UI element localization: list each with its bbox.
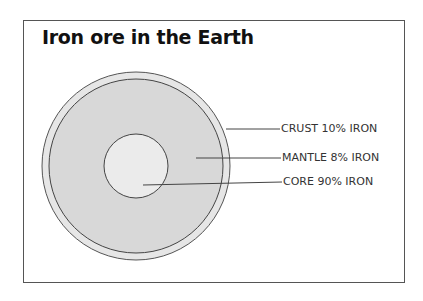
mantle-label: MANTLE 8% IRON [282, 151, 379, 164]
core-label: CORE 90% IRON [283, 175, 373, 188]
crust-label: CRUST 10% IRON [281, 122, 377, 135]
core-layer [104, 134, 168, 198]
